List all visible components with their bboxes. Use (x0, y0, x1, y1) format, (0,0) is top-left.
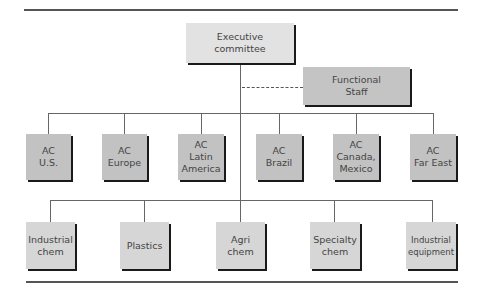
division-connector (50, 200, 51, 222)
division-bar (50, 200, 433, 201)
agri-chem-box: Agri chem (216, 222, 265, 269)
trunk-line (240, 63, 241, 222)
functional-staff-box: Functional Staff (303, 67, 410, 105)
ac-far-east-box: AC Far East (410, 134, 456, 180)
ac-connector (356, 113, 357, 134)
ac-us-box: AC U.S. (26, 134, 71, 180)
ac-canada-mexico-box: AC Canada, Mexico (333, 134, 379, 180)
top-rule (24, 9, 458, 11)
industrial-equipment-box: Industrial equipment (406, 222, 456, 269)
ac-latin-america-box: AC Latin America (178, 134, 224, 180)
industrial-chem-box: Industrial chem (26, 222, 75, 269)
ac-europe-box: AC Europe (102, 134, 147, 180)
ac-connector (433, 113, 434, 134)
ac-brazil-box: AC Brazil (256, 134, 302, 180)
bottom-rule (26, 281, 458, 283)
ac-connector (201, 113, 202, 134)
specialty-chem-box: Specialty chem (310, 222, 360, 269)
ac-bar (48, 113, 434, 114)
ac-connector (124, 113, 125, 134)
ac-connector (279, 113, 280, 134)
division-connector (144, 200, 145, 222)
staff-dashed-link (242, 87, 303, 88)
division-connector (334, 200, 335, 222)
ac-connector (48, 113, 49, 134)
plastics-box: Plastics (120, 222, 169, 269)
executive-committee-box: Executive committee (186, 23, 294, 63)
division-connector (432, 200, 433, 222)
